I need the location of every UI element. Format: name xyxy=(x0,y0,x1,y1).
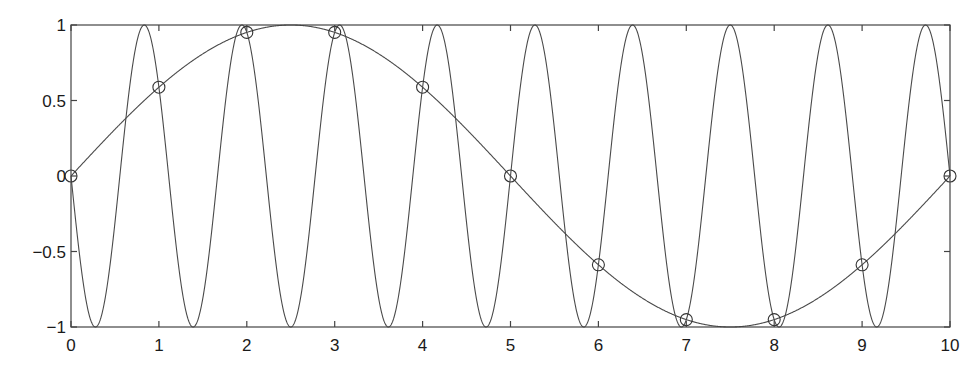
x-tick-label: 1 xyxy=(154,336,163,355)
slow-sinusoid-line xyxy=(71,25,950,327)
aliasing-line-chart: 012345678910 10.50−0.5−1 xyxy=(0,0,976,376)
x-tick-label: 9 xyxy=(857,336,866,355)
y-axis-tick-labels: 10.50−0.5−1 xyxy=(32,16,66,337)
y-tick-label: 0 xyxy=(57,167,66,186)
x-tick-label: 0 xyxy=(66,336,75,355)
y-tick-label: 1 xyxy=(57,16,66,35)
x-tick-label: 8 xyxy=(769,336,778,355)
x-axis-tick-labels: 012345678910 xyxy=(66,336,959,355)
x-tick-label: 10 xyxy=(941,336,960,355)
plot-area xyxy=(65,25,956,327)
x-tick-label: 4 xyxy=(418,336,427,355)
y-tick-label: −0.5 xyxy=(32,243,66,262)
x-tick-label: 2 xyxy=(242,336,251,355)
x-tick-label: 3 xyxy=(330,336,339,355)
x-tick-label: 5 xyxy=(506,336,515,355)
y-tick-label: −1 xyxy=(47,318,66,337)
x-tick-label: 6 xyxy=(594,336,603,355)
x-tick-label: 7 xyxy=(682,336,691,355)
y-tick-label: 0.5 xyxy=(42,92,66,111)
